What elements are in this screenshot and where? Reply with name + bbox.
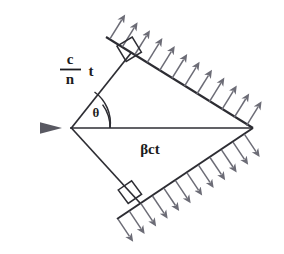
wavefront-arrow (118, 219, 130, 236)
wavefront-arrow (141, 204, 153, 221)
light-ray-upper (71, 53, 131, 129)
theta-arc (103, 105, 110, 128)
wavefront-lower-line (117, 128, 253, 219)
wavefront-arrow (245, 134, 257, 151)
incoming-beam-arrowhead (40, 122, 62, 134)
wavefront-upper-arrows (110, 20, 258, 126)
right-angle-markers-group (117, 37, 142, 203)
light-ray-lower (71, 128, 140, 204)
wavefront-arrow (176, 181, 188, 198)
cherenkov-diagram-figure: θ βct c n t (0, 0, 284, 254)
wavefront-arrow (187, 173, 199, 190)
wavefront-arrow (197, 75, 209, 94)
incoming-beam-group (18, 122, 62, 134)
wavefront-arrow (210, 158, 222, 175)
wavefront-arrow (222, 150, 234, 167)
particle-path-label: βct (140, 141, 160, 157)
wavefront-upper-line (106, 37, 253, 128)
cone-rays-group (70, 53, 253, 203)
wavefront-arrow (147, 44, 159, 63)
wavefront-arrow (222, 91, 234, 110)
speed-time-label: t (89, 63, 94, 79)
wavefront-arrow (110, 20, 122, 39)
wavefront-arrow (185, 67, 197, 86)
wavefront-arrow (209, 83, 221, 102)
wavefront-arrow (153, 196, 165, 213)
wavefront-arrow (247, 107, 259, 126)
speed-fraction-denominator: n (66, 71, 75, 87)
wavefront-arrow (160, 52, 172, 71)
labels-group: θ βct c n t (60, 51, 160, 157)
wavefront-arrow (234, 99, 246, 118)
wavefront-arrow (130, 211, 142, 228)
wavefront-arrow (233, 142, 245, 159)
speed-fraction-numerator: c (67, 51, 74, 67)
wavefront-arrow (172, 60, 184, 79)
angle-label: θ (93, 105, 100, 120)
wavefront-lower-arrows (118, 134, 256, 236)
diagram-canvas: θ βct c n t (0, 0, 284, 254)
wavefront-arrow (164, 188, 176, 205)
wavefront-arrow (199, 165, 211, 182)
